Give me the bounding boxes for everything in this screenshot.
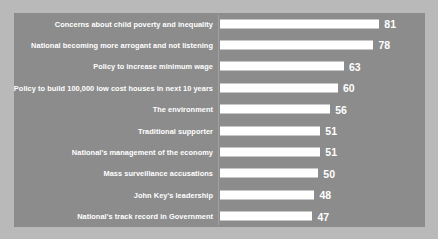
bar-track: 63 [220, 62, 361, 71]
bar-category-label: National's management of the economy [72, 148, 213, 157]
chart-plot-area: Concerns about child poverty and inequal… [14, 13, 425, 227]
bar-value-label: 51 [325, 147, 337, 158]
bar-row: The environment56 [14, 99, 425, 120]
bar-row: Traditional supporter51 [14, 120, 425, 141]
bar-category-label: Policy to build 100,000 low cost houses … [14, 83, 213, 92]
bar-value-label: 56 [335, 104, 347, 115]
bar-fill [220, 62, 344, 71]
bar-category-label: National becoming more arrogant and not … [31, 41, 213, 50]
bar-category-label: John Key's leadership [134, 190, 213, 199]
bar-value-label: 48 [319, 190, 331, 201]
bar-track: 81 [220, 19, 396, 28]
bar-fill [220, 212, 312, 221]
bar-value-label: 63 [349, 61, 361, 72]
bar-category-label: Traditional supporter [138, 126, 213, 135]
bar-track: 50 [220, 169, 335, 178]
bar-row: Mass surveillance accusations50 [14, 163, 425, 184]
bar-track: 48 [220, 190, 331, 199]
bar-track: 60 [220, 83, 355, 92]
bar-category-label: Concerns about child poverty and inequal… [55, 19, 213, 28]
bar-track: 56 [220, 105, 347, 114]
bar-category-label: The environment [153, 105, 213, 114]
bar-fill [220, 190, 314, 199]
bar-fill [220, 148, 320, 157]
bar-fill [220, 83, 338, 92]
bar-value-label: 47 [317, 211, 329, 222]
bar-fill [220, 41, 373, 50]
chart-screenshot: Concerns about child poverty and inequal… [0, 0, 438, 239]
bar-fill [220, 126, 320, 135]
bar-track: 47 [220, 212, 329, 221]
bar-row: Policy to build 100,000 low cost houses … [14, 77, 425, 98]
bar-value-label: 78 [378, 40, 390, 51]
bar-category-label: National's track record in Government [77, 212, 213, 221]
bar-track: 78 [220, 41, 390, 50]
bar-fill [220, 105, 330, 114]
bar-value-label: 50 [323, 168, 335, 179]
bar-row: National's track record in Government47 [14, 206, 425, 227]
bar-category-label: Mass surveillance accusations [104, 169, 214, 178]
bar-value-label: 81 [384, 18, 396, 29]
bar-row: National becoming more arrogant and not … [14, 34, 425, 55]
bar-row: Policy to increase minimum wage63 [14, 56, 425, 77]
bar-category-label: Policy to increase minimum wage [93, 62, 213, 71]
bar-value-label: 60 [343, 83, 355, 94]
bar-row: National's management of the economy51 [14, 141, 425, 162]
bar-value-label: 51 [325, 125, 337, 136]
bar-row: John Key's leadership48 [14, 184, 425, 205]
bar-fill [220, 19, 379, 28]
chart-plot-panel: Concerns about child poverty and inequal… [14, 13, 425, 227]
bar-fill [220, 169, 318, 178]
bar-track: 51 [220, 148, 337, 157]
bar-track: 51 [220, 126, 337, 135]
bar-row: Concerns about child poverty and inequal… [14, 13, 425, 34]
